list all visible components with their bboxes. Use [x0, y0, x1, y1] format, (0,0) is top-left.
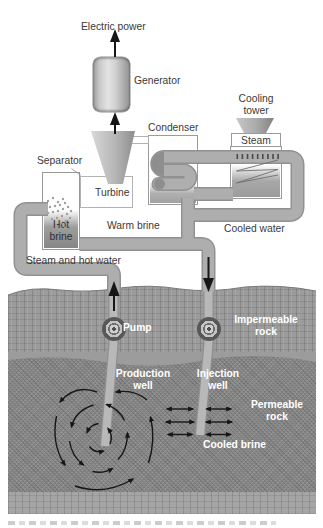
production-well-label-line1: Production	[110, 368, 176, 380]
separator-label: Separator	[37, 155, 82, 167]
electric-power-arrow	[110, 29, 120, 57]
generator-cylinder	[93, 57, 130, 112]
impermeable-rock-label-line2: rock	[228, 326, 304, 338]
impermeable-rock-label: Impermeable rock	[228, 314, 304, 337]
cooling-tower-label-line1: Cooling	[229, 93, 283, 105]
cooling-tower-water-basin	[232, 165, 280, 197]
cooled-brine-label: Cooled brine	[203, 439, 266, 451]
electric-power-label: Electric power	[81, 21, 146, 33]
permeable-rock-label-line1: Permeable	[244, 399, 310, 411]
generator-label: Generator	[134, 75, 180, 87]
permeable-rock-label: Permeable rock	[244, 399, 310, 422]
hot-brine-liquid: Hot brine	[44, 210, 78, 248]
separator-vessel: Hot brine	[42, 172, 80, 250]
condenser-water-basin	[150, 182, 196, 203]
injection-well-label-line2: well	[185, 380, 251, 392]
cooling-tower-top	[236, 118, 274, 133]
condenser-label: Condenser	[148, 122, 198, 134]
geothermal-power-plant-diagram: Hot brine	[0, 0, 323, 528]
production-well-label-line2: well	[110, 380, 176, 392]
turbine-generator-arrow	[110, 112, 120, 134]
injection-pump	[197, 317, 221, 341]
cropped-caption	[8, 521, 276, 525]
hot-brine-label-line2: brine	[44, 231, 78, 243]
permeable-rock-label-line2: rock	[244, 411, 310, 423]
production-well-label: Production well	[110, 368, 176, 391]
injection-well-label-line1: Injection	[185, 368, 251, 380]
steam-label: Steam	[231, 135, 281, 147]
bottom-rock-layer	[8, 492, 316, 514]
cooling-tower-body	[230, 146, 282, 199]
production-pump	[102, 317, 126, 341]
warm-brine-label: Warm brine	[107, 220, 160, 232]
impermeable-rock-label-line1: Impermeable	[228, 314, 304, 326]
pump-label: Pump	[123, 322, 152, 334]
turbine-label: Turbine	[95, 187, 130, 199]
condenser-box	[148, 135, 198, 205]
cooling-tower-label: Cooling tower	[229, 93, 283, 116]
injection-well-label: Injection well	[185, 368, 251, 391]
steam-and-hot-water-label: Steam and hot water	[26, 255, 121, 267]
cooled-water-label: Cooled water	[224, 223, 285, 235]
hot-brine-label-line1: Hot	[44, 219, 78, 231]
cooling-tower-label-line2: tower	[229, 105, 283, 117]
